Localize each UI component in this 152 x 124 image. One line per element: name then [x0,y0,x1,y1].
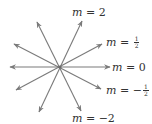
var-m: m [72,6,82,19]
label-m-0: m = 0 [112,62,146,73]
equals: = [122,61,138,74]
label-m-2: m = 2 [72,7,106,18]
value: −2 [99,112,115,124]
denominator: 2 [143,91,149,97]
center-point [58,65,61,68]
fraction: 12 [143,84,149,97]
value: 0 [139,61,146,74]
label-m-half: m = 12 [106,36,139,49]
var-m: m [106,84,116,97]
value: 2 [99,6,106,19]
var-m: m [106,36,116,49]
denominator: 2 [134,43,140,49]
var-m: m [72,112,82,124]
fraction: 12 [134,36,140,49]
equals: = [116,36,132,49]
var-m: m [112,61,122,74]
equals: = [82,112,98,124]
equals: = [82,6,98,19]
label-m-neg-half: m = −12 [106,84,149,97]
equals: = − [116,84,141,97]
label-m-neg-2: m = −2 [72,113,115,124]
